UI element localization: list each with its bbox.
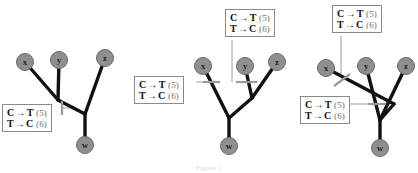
mutation-label-box: C→T (5)T→C (6): [134, 76, 184, 104]
taxon-node: w: [372, 140, 389, 157]
taxon-node: y: [358, 58, 375, 75]
mutation-label-box: C→T (5)T→C (6): [225, 9, 275, 37]
tree-panel-left: xyzw C→T (5)T→C (6): [0, 0, 140, 173]
taxon-node: z: [269, 54, 286, 71]
taxon-node: x: [195, 58, 212, 75]
mutation-from-base: T: [337, 19, 344, 30]
tree-panel-middle: xyzw C→T (5)T→C (6)C→T (5)T→C (6): [140, 0, 290, 173]
tree-branch: [229, 98, 252, 118]
arrow-icon: →: [344, 8, 356, 19]
mutation-count: (5): [364, 9, 378, 19]
arrow-icon: →: [237, 12, 249, 23]
mutation-count: (5): [166, 80, 180, 90]
taxon-label: z: [404, 61, 408, 71]
mutation-count: (5): [257, 13, 271, 23]
mutation-to-base: T: [357, 8, 364, 19]
mutation-to-base: T: [27, 107, 34, 118]
taxon-node: y: [237, 58, 254, 75]
mutation-label-box: C→T (5)T→C (6): [300, 96, 350, 124]
mutation-label-box: C→T (5)T→C (6): [2, 104, 52, 132]
taxon-label: z: [275, 57, 279, 67]
mutation-from-base: T: [7, 118, 14, 129]
taxon-node: x: [17, 54, 34, 71]
mutation-label-line: T→C (6): [337, 19, 377, 30]
arrow-icon: →: [312, 110, 324, 121]
mutation-count: (6): [364, 20, 378, 30]
mutation-count: (6): [257, 24, 271, 34]
mutation-to-base: T: [325, 99, 332, 110]
taxon-node: w: [221, 138, 238, 155]
mutation-to-base: T: [250, 12, 257, 23]
phylogenetic-tree-figure: xyzw C→T (5)T→C (6) xyzw C→T (5)T→C (6)C…: [0, 0, 418, 173]
mutation-label-line: C→T (5): [139, 79, 179, 90]
taxon-node: z: [398, 58, 415, 75]
arrow-icon: →: [14, 118, 26, 129]
taxon-node: x: [318, 60, 335, 77]
taxon-label: z: [103, 53, 107, 63]
mutation-label-line: C→T (5): [305, 99, 345, 110]
figure-caption: Figure 1: [0, 164, 418, 172]
mutation-label-line: C→T (5): [230, 12, 270, 23]
arrow-icon: →: [312, 99, 324, 110]
taxon-label: w: [226, 141, 233, 151]
mutation-label-box: C→T (5)T→C (6): [332, 5, 382, 33]
taxon-label: w: [82, 140, 89, 150]
mutation-from-base: T: [139, 90, 146, 101]
mutation-count: (6): [332, 111, 346, 121]
mutation-label-line: T→C (6): [305, 110, 345, 121]
mutation-from-base: T: [305, 110, 312, 121]
taxon-node: z: [97, 50, 114, 67]
mutation-count: (5): [332, 100, 346, 110]
mutation-count: (6): [166, 91, 180, 101]
mutation-to-base: C: [26, 118, 33, 129]
mutation-label-line: T→C (6): [230, 23, 270, 34]
mutation-to-base: C: [158, 90, 165, 101]
taxon-node: y: [51, 52, 68, 69]
arrow-icon: →: [146, 79, 158, 90]
mutation-label-line: C→T (5): [7, 107, 47, 118]
arrow-icon: →: [14, 107, 26, 118]
taxon-label: w: [377, 143, 384, 153]
tree-diagram-left: xyzw: [0, 0, 140, 173]
arrow-icon: →: [237, 23, 249, 34]
mutation-label-line: C→T (5): [337, 8, 377, 19]
mutation-to-base: T: [159, 79, 166, 90]
taxon-node: w: [77, 137, 94, 154]
tree-panel-right: xyzw C→T (5)T→C (6)C→T (5)T→C (6): [290, 0, 418, 173]
arrow-icon: →: [146, 90, 158, 101]
mutation-to-base: C: [324, 110, 331, 121]
arrow-icon: →: [344, 19, 356, 30]
mutation-from-base: T: [230, 23, 237, 34]
mutation-to-base: C: [249, 23, 256, 34]
mutation-to-base: C: [356, 19, 363, 30]
mutation-count: (6): [34, 119, 48, 129]
mutation-count: (5): [34, 108, 48, 118]
mutation-label-line: T→C (6): [7, 118, 47, 129]
mutation-label-line: T→C (6): [139, 90, 179, 101]
